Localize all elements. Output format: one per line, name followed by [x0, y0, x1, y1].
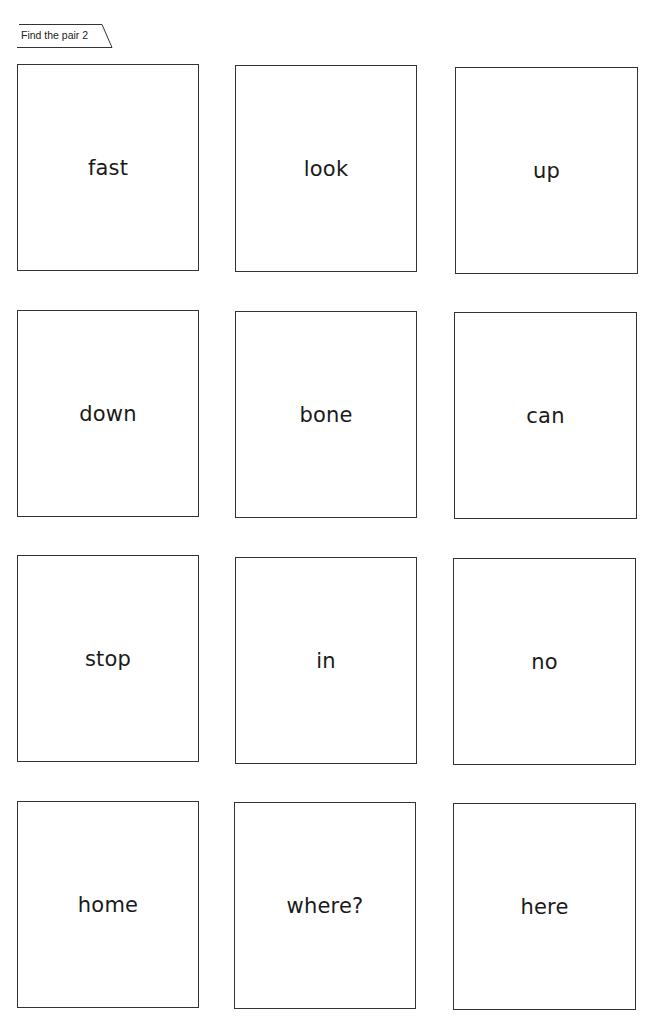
card-word: up	[533, 159, 560, 183]
card-word: where?	[287, 894, 364, 918]
word-card-fast[interactable]: fast	[17, 64, 199, 271]
card-word: here	[520, 895, 568, 919]
word-card-stop[interactable]: stop	[17, 555, 199, 762]
card-word: home	[78, 893, 138, 917]
card-word: stop	[85, 647, 131, 671]
word-card-here[interactable]: here	[453, 803, 636, 1010]
card-word: bone	[299, 403, 352, 427]
word-card-bone[interactable]: bone	[235, 311, 417, 518]
card-word: look	[304, 157, 349, 181]
word-card-home[interactable]: home	[17, 801, 199, 1008]
worksheet-title-tab: Find the pair 2	[17, 24, 113, 48]
word-card-no[interactable]: no	[453, 558, 636, 765]
word-card-in[interactable]: in	[235, 557, 417, 764]
card-word: no	[531, 650, 558, 674]
card-word: in	[316, 649, 336, 673]
word-card-look[interactable]: look	[235, 65, 417, 272]
card-word: down	[79, 402, 136, 426]
card-word: fast	[88, 156, 128, 180]
worksheet-title: Find the pair 2	[21, 29, 88, 41]
word-card-can[interactable]: can	[454, 312, 637, 519]
card-word: can	[526, 404, 564, 428]
word-card-where[interactable]: where?	[234, 802, 416, 1009]
word-card-up[interactable]: up	[455, 67, 638, 274]
word-card-down[interactable]: down	[17, 310, 199, 517]
